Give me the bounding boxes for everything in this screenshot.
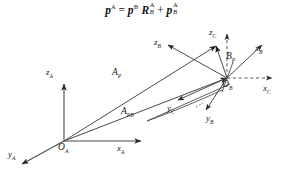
label-o-a: OA: [58, 143, 68, 154]
figure-root: pA=pB RAB+pAB: [0, 0, 283, 172]
label-x-a: xA: [117, 144, 124, 155]
label-z-c-sub: C: [213, 33, 217, 39]
label-y-c: yC: [167, 104, 175, 115]
label-vector-p-sub: P: [118, 73, 121, 79]
label-y-a: yA: [8, 150, 15, 161]
label-z-b-sub: B: [158, 43, 161, 49]
frame-b-axes: [168, 45, 262, 110]
aux-line-lower: [147, 84, 230, 121]
label-o-a-sub: A: [65, 148, 68, 154]
label-x-b-sub: B: [259, 49, 262, 55]
label-o-b-sub: B: [229, 85, 232, 91]
label-o-a-base: O: [58, 142, 65, 152]
label-y-b: yB: [206, 114, 213, 125]
auxiliary-lines: [147, 84, 230, 121]
axis-z-b: [168, 45, 227, 78]
label-vector-pb-sub: PB: [127, 112, 134, 118]
label-z-b: zB: [154, 38, 161, 49]
vector-pb: [64, 78, 227, 141]
label-y-b-sub: B: [210, 119, 213, 125]
vector-pb-line: [64, 78, 227, 141]
aux-tick: [196, 103, 203, 107]
label-y-a-sub: A: [12, 155, 15, 161]
label-z-a-sub: A: [50, 73, 53, 79]
label-x-c: xC: [263, 84, 271, 95]
diagram-canvas: [0, 0, 283, 172]
label-z-c: zC: [209, 28, 216, 39]
label-x-b: xB: [255, 44, 262, 55]
label-y-c-sub: C: [171, 109, 175, 115]
label-vector-pb: APB: [121, 107, 134, 118]
label-o-b: OB: [222, 80, 232, 91]
label-vector-p: AP: [112, 68, 121, 79]
label-o-b-base: O: [222, 79, 229, 89]
label-point-b: BP: [226, 52, 235, 63]
label-x-a-sub: A: [121, 149, 124, 155]
label-x-c-sub: C: [267, 89, 271, 95]
label-z-a: zA: [46, 68, 53, 79]
label-point-b-sub: P: [232, 57, 235, 63]
